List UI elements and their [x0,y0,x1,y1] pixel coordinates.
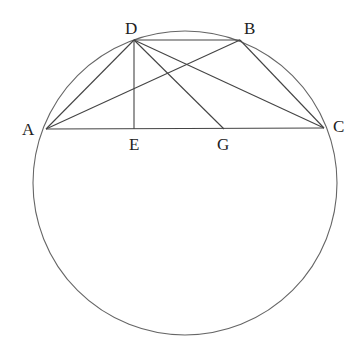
label-d: D [125,19,137,38]
label-e: E [129,135,139,154]
circumscribed-circle [33,31,337,335]
segments [46,40,324,129]
label-b: B [244,19,255,38]
geometry-diagram: A D B C E G [0,0,359,359]
label-c: C [333,117,344,136]
label-g: G [217,135,229,154]
segment-ac [46,128,324,129]
segment-dc [134,40,324,128]
label-a: A [22,120,35,139]
segment-ad [46,40,134,129]
segment-bc [240,40,324,128]
